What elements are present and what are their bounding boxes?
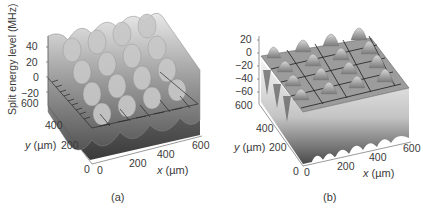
- z-tick-b-2: −20: [235, 59, 253, 71]
- y-tick-a-600: 600: [21, 97, 39, 109]
- z-tick-a-2: 0: [33, 71, 39, 83]
- z-tick-a-0: 40: [26, 40, 38, 52]
- x-axis-label-a: x (µm): [157, 164, 188, 176]
- x-tick-b-600: 600: [403, 142, 421, 154]
- y-axis-label-b: y (µm): [234, 141, 265, 153]
- x-axis-label-b: x (µm): [363, 167, 394, 179]
- panel-caption-a: (a): [111, 191, 124, 203]
- x-tick-a-0: 0: [97, 164, 103, 176]
- y-tick-b-200: 200: [269, 141, 287, 153]
- x-tick-a-400: 400: [157, 148, 175, 160]
- chart-panel-a: Split energy level (MHz) 40 20 0 −20 600…: [0, 0, 212, 213]
- y-tick-b-600: 600: [235, 99, 253, 111]
- y-tick-b-400: 400: [256, 122, 274, 134]
- y-tick-a-0: 0: [84, 163, 90, 175]
- z-axis-label-a: Split energy level (MHz): [6, 4, 18, 115]
- z-tick-b-1: 0: [246, 46, 252, 58]
- y-tick-a-400: 400: [45, 119, 63, 131]
- y-axis-label-a: y (µm): [25, 139, 56, 151]
- z-tick-b-4: −60: [235, 85, 253, 97]
- x-tick-a-600: 600: [192, 139, 210, 151]
- panel-caption-b: (b): [323, 191, 336, 203]
- x-tick-a-200: 200: [129, 157, 147, 169]
- x-tick-b-0: 0: [304, 166, 310, 178]
- z-tick-b-0: 20: [240, 33, 252, 45]
- x-tick-b-200: 200: [337, 160, 355, 172]
- chart-panel-b: 20 0 −20 −40 −60 600 400 200 0 y (µm) 0 …: [211, 0, 423, 213]
- y-tick-b-0: 0: [293, 165, 299, 177]
- z-tick-a-1: 20: [26, 56, 38, 68]
- x-tick-b-400: 400: [369, 151, 387, 163]
- z-tick-b-3: −40: [235, 72, 253, 84]
- y-tick-a-200: 200: [61, 139, 79, 151]
